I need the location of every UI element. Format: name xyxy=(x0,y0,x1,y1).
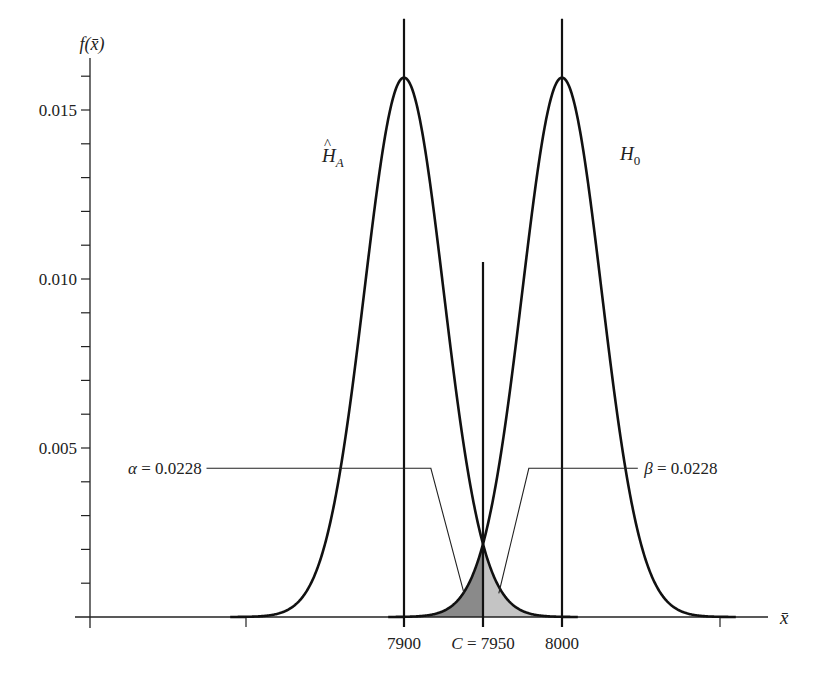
vertical-reference-lines xyxy=(404,19,562,627)
beta-leader-line xyxy=(499,468,638,593)
y-tick-label: 0.015 xyxy=(39,101,77,120)
alpha-label: α = 0.0228 xyxy=(128,459,202,478)
x-axis-title: x̄ xyxy=(779,607,789,628)
x-tick-label: C = 7950 xyxy=(451,634,514,653)
H-0-label: H0 xyxy=(619,143,640,168)
y-tick-label: 0.005 xyxy=(39,439,77,458)
y-axis-title: f(x̄) xyxy=(80,34,105,55)
alpha-shaded-region xyxy=(428,544,483,617)
beta-shaded-region xyxy=(483,544,538,617)
x-tick-label: 7900 xyxy=(387,634,421,653)
hypothesis-test-chart: 0.0050.0100.0157900C = 79508000f(x̄)x̄α … xyxy=(0,0,818,679)
axes xyxy=(75,58,768,628)
hat-accent: ^ xyxy=(324,136,331,152)
alpha-leader-line xyxy=(207,468,465,593)
x-tick-label: 8000 xyxy=(545,634,579,653)
y-tick-label: 0.010 xyxy=(39,270,77,289)
labels: 0.0050.0100.0157900C = 79508000f(x̄)x̄α … xyxy=(39,34,789,653)
beta-label: β = 0.0228 xyxy=(643,459,717,478)
annotations xyxy=(207,468,638,593)
